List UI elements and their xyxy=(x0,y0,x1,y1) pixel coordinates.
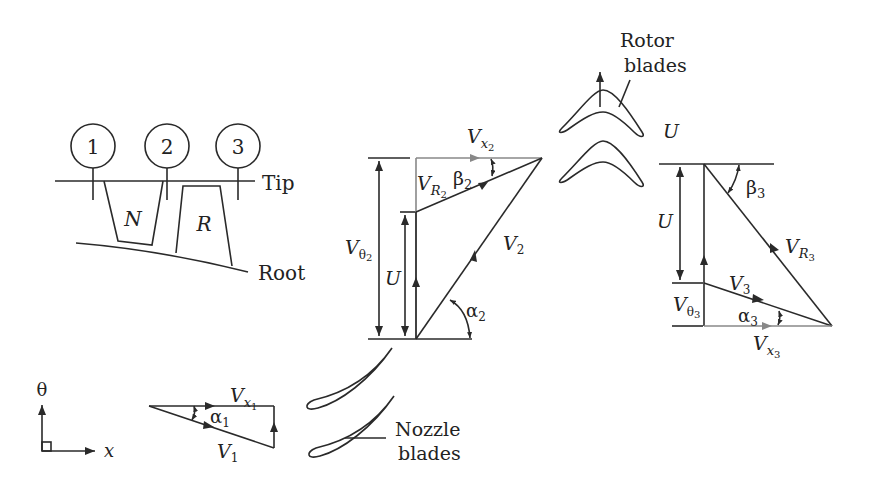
rotor-blade-lower xyxy=(560,141,644,187)
root-label: Root xyxy=(258,261,305,285)
coordinate-axes: θ x xyxy=(37,379,115,461)
rotor-blades-label-line1: Rotor xyxy=(620,29,675,51)
x-axis-label: x xyxy=(104,440,114,461)
v3-label: V3 xyxy=(729,272,750,297)
alpha2-label: α2 xyxy=(466,300,486,324)
vx1-label: Vx1 xyxy=(230,384,257,412)
stage3-velocity-triangle: β3 U VR3 V3 Vθ3 α3 Vx3 xyxy=(657,164,832,360)
nozzle-blades-label-line1: Nozzle xyxy=(395,418,460,440)
nozzle-blade-lower xyxy=(309,396,394,457)
station-1-marker: 1 xyxy=(71,124,115,200)
rotor-label: R xyxy=(195,212,211,236)
station-1-label: 1 xyxy=(87,135,100,159)
vr3-label: VR3 xyxy=(785,235,815,263)
theta-axis-label: θ xyxy=(37,379,48,400)
station-3-marker: 3 xyxy=(216,124,260,200)
station-schematic: 1 2 3 Tip Root N R xyxy=(55,124,305,285)
u-rotor-label: U xyxy=(663,120,680,142)
vtheta2-label: Vθ2 xyxy=(345,236,372,263)
tip-label: Tip xyxy=(262,171,295,195)
inlet-velocity-triangle: Vx1 α1 V1 xyxy=(149,384,278,465)
nozzle-blade-upper xyxy=(307,348,392,409)
stage2-velocity-triangle: Vx2 β2 VR2 Vθ2 U V2 α2 xyxy=(345,125,542,339)
turbine-velocity-diagram: 1 2 3 Tip Root N R θ x xyxy=(0,0,869,492)
station-3-label: 3 xyxy=(232,135,245,159)
rotor-blades: Rotor blades U xyxy=(560,29,687,187)
rotor-blade-upper xyxy=(560,90,644,137)
alpha1-label: α1 xyxy=(210,406,230,430)
vx2-label: Vx2 xyxy=(467,125,494,153)
nozzle-blades-label-line2: blades xyxy=(398,442,461,464)
alpha3-label: α3 xyxy=(738,305,758,329)
beta3-label: β3 xyxy=(746,176,765,201)
nozzle-blades: Nozzle blades xyxy=(307,348,461,464)
rotor-blades-label-line2: blades xyxy=(624,54,687,76)
vtheta3-label: Vθ3 xyxy=(673,293,700,320)
v2-label: V2 xyxy=(503,232,524,257)
vr2-label: VR2 xyxy=(417,172,447,200)
vx3-label: Vx3 xyxy=(753,332,780,360)
root-curve xyxy=(76,243,248,272)
nozzle-label: N xyxy=(123,207,143,231)
v1-label: V1 xyxy=(217,440,238,465)
beta2-label: β2 xyxy=(453,167,472,192)
station-2-label: 2 xyxy=(161,135,174,159)
u3-label: U xyxy=(657,210,674,232)
u2-label: U xyxy=(385,267,402,289)
